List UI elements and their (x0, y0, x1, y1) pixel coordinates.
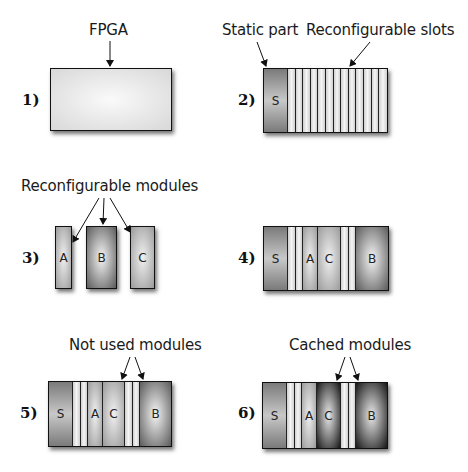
module-b-label: B (87, 227, 116, 288)
slot (288, 69, 296, 132)
slot (81, 382, 89, 446)
slot (372, 69, 380, 132)
module-c: C (130, 226, 155, 289)
slot (349, 69, 357, 132)
slot (287, 383, 295, 448)
slot (296, 69, 304, 132)
module-a-segment: A (303, 227, 318, 290)
fpga-with-slots: S (263, 68, 388, 133)
cached-modules-caption: Cached modules (289, 336, 411, 354)
reconfigurable-modules-caption: Reconfigurable modules (21, 177, 198, 195)
cached-module-c-segment: C (317, 383, 341, 448)
cached-arrow-1 (337, 357, 345, 380)
static-part-arrow (257, 42, 266, 66)
slot (295, 383, 303, 448)
slot (379, 69, 387, 132)
slot (296, 227, 304, 290)
slot (73, 382, 81, 446)
static-segment: S (264, 227, 288, 290)
slot (341, 383, 349, 448)
fpga-configured: S A C B (263, 226, 389, 291)
not-used-arrow-1 (122, 357, 130, 379)
slot (341, 227, 349, 290)
static-segment: S (264, 69, 288, 132)
cached-module-b-segment: B (356, 383, 387, 448)
slot (288, 227, 296, 290)
slot (318, 69, 326, 132)
static-segment: S (263, 383, 287, 448)
module-b-arrow (103, 198, 104, 224)
module-a-segment: A (302, 383, 317, 448)
panel-1-number: 1) (22, 91, 40, 109)
panel-2-number: 2) (238, 91, 256, 109)
module-b-segment: B (356, 227, 388, 290)
slot (349, 227, 357, 290)
not-used-modules-caption: Not used modules (69, 336, 202, 354)
module-c-segment: C (318, 227, 341, 290)
panel-4-number: 4) (238, 249, 256, 267)
module-b: B (86, 226, 117, 289)
slot (303, 69, 311, 132)
slot (311, 69, 319, 132)
panel-6-number: 6) (238, 404, 256, 422)
slot (341, 69, 349, 132)
unused-slot (133, 382, 141, 446)
slot (334, 69, 342, 132)
module-c-segment: C (103, 382, 125, 446)
fpga-not-used: S A C B (48, 381, 172, 447)
fpga-cached: S A C B (262, 382, 388, 449)
module-a: A (55, 226, 72, 289)
slots-arrow (350, 42, 370, 66)
reconfigurable-slots-caption: Reconfigurable slots (306, 21, 454, 39)
module-a-segment: A (88, 382, 103, 446)
fpga-box (50, 68, 172, 131)
slot (326, 69, 334, 132)
module-c-label: C (131, 227, 154, 288)
module-b-segment: B (140, 382, 171, 446)
slot (356, 69, 364, 132)
cached-arrow-2 (350, 357, 358, 380)
panel-3-number: 3) (22, 249, 40, 267)
not-used-arrow-2 (135, 357, 143, 379)
fpga-caption: FPGA (89, 21, 128, 39)
static-part-caption: Static part (222, 21, 298, 39)
static-segment: S (49, 382, 73, 446)
module-a-label: A (56, 227, 71, 288)
unused-slot (125, 382, 133, 446)
slot (349, 383, 357, 448)
slot (364, 69, 372, 132)
panel-5-number: 5) (20, 404, 38, 422)
